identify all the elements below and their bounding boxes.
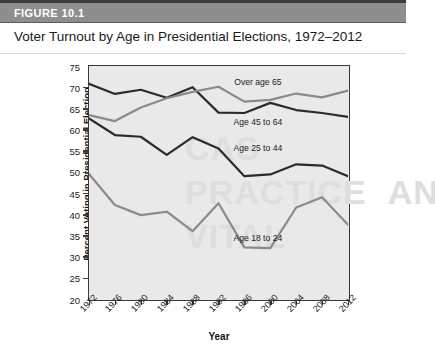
series-line: [89, 84, 348, 117]
chart-area: Percent Voting in Presidential Election …: [0, 56, 406, 356]
y-axis-tick-mark: [83, 129, 88, 131]
y-axis-tick-label: 60: [69, 125, 80, 136]
y-axis-tick-label: 70: [69, 82, 80, 93]
series-svg: [89, 66, 348, 299]
y-axis-tick-mark: [83, 172, 88, 174]
plot-frame: CAS PRACTICE ANDVITAL: [88, 65, 350, 301]
y-axis-tick-label: 65: [69, 103, 80, 114]
y-axis-tick-mark: [83, 193, 88, 195]
y-axis-tick-label: 55: [69, 146, 80, 157]
y-axis-tick-label: 40: [69, 209, 80, 220]
series-line: [89, 119, 348, 177]
series-inline-label: Age 25 to 44: [233, 143, 282, 153]
y-axis-tick-label: 75: [69, 61, 80, 72]
series-line: [89, 174, 348, 248]
y-axis-tick-mark: [83, 150, 88, 152]
plot-inner: [89, 66, 349, 300]
y-axis-tick-label: 20: [69, 294, 80, 305]
y-axis-tick-mark: [83, 278, 88, 280]
x-axis-tick-label: 1972: [78, 292, 99, 313]
y-axis-tick-mark: [83, 108, 88, 110]
x-axis-title: Year: [88, 331, 350, 342]
figure-header-band: FIGURE 10.1: [0, 3, 406, 23]
y-axis-tick-label: 30: [69, 252, 80, 263]
figure-number-label: FIGURE 10.1: [14, 7, 84, 19]
y-axis-tick-mark: [83, 256, 88, 258]
y-axis-tick-mark: [83, 235, 88, 237]
y-axis-tick-mark: [83, 87, 88, 89]
series-inline-label: Over age 65: [234, 77, 281, 87]
y-axis-tick-label: 45: [69, 188, 80, 199]
header-divider: [0, 53, 406, 54]
series-inline-label: Age 45 to 64: [233, 117, 282, 127]
y-axis-tick-mark: [83, 214, 88, 216]
y-axis-tick-label: 35: [69, 230, 80, 241]
figure-title: Voter Turnout by Age in Presidential Ele…: [14, 29, 394, 44]
y-axis-tick-label: 50: [69, 167, 80, 178]
series-inline-label: Age 18 to 24: [233, 233, 282, 243]
y-axis-tick-label: 25: [69, 273, 80, 284]
